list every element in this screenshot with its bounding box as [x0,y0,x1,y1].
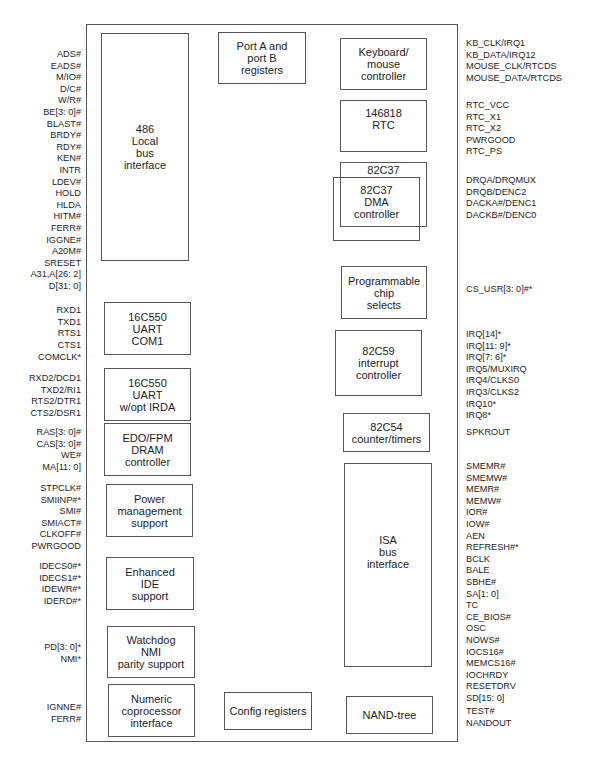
pin-label: SBHE# [466,577,519,589]
pin-label: IRQ3/CLKS2 [466,387,527,399]
pin-label: CLKOFF# [31,529,81,541]
dma-controller-label: 82C37 DMA controller [354,184,399,220]
pin-label: RTS2/DTR1 [29,396,81,408]
isa-bus-interface-label: ISA bus interface [367,534,409,570]
pin-label: IRQ5/MUXIRQ [466,364,527,376]
local-bus-interface-block: 486 Local bus interface [101,33,189,261]
keyboard-mouse-controller-label: Keyboard/ mouse controller [358,46,408,82]
pin-label: CTS1 [56,340,81,352]
pin-label: RXD1 [56,305,81,317]
pin-label: SA[1: 0] [466,589,519,601]
pin-label: NANDOUT [466,718,511,730]
pins-keyboard: KB_CLK/IRQ1 KB_DATA/IRQ12 MOUSE_CLK/RTCD… [466,38,562,84]
port-ab-registers-label: Port A and port B registers [237,40,288,76]
pin-label: IOR# [466,507,519,519]
pins-comclk: COMCLK* [38,352,81,364]
pin-label: FERR# [30,223,81,235]
keyboard-mouse-controller-block: Keyboard/ mouse controller [340,38,427,90]
power-management-block: Power management support [106,484,193,537]
pin-label: TC [466,600,519,612]
uart-irda-block: 16C550 UART w/opt IRDA [104,368,191,421]
pins-ide: IDECS0#* IDECS1#* IDEWR#* IDERD#* [39,561,81,607]
pin-label: IDECS1#* [39,573,81,585]
pin-label: STPCLK# [31,483,81,495]
pin-label: RAS[3: 0]# [37,427,81,439]
pin-label: RTS1 [56,328,81,340]
pin-label: WE# [37,450,81,462]
pin-label: AEN [466,531,519,543]
pin-label: IOCS16# [466,647,519,659]
isa-bus-interface-block: ISA bus interface [344,463,432,667]
pin-label: EADS# [30,61,81,73]
pin-label: SMI# [31,506,81,518]
pins-rtc: RTC_VCC RTC_X1 RTC_X2 PWRGOOD RTC_PS [466,100,516,158]
pins-isa: SMEMR# SMEMW# MEMR# MEMW# IOR# IOW# AEN … [466,461,519,704]
pin-label: MEMW# [466,496,519,508]
pin-label: BALE [466,565,519,577]
pin-label: SPKROUT [466,427,510,439]
programmable-chip-selects-label: Programmable chip selects [348,275,420,311]
pin-label: CS_USR[3: 0]#* [466,284,532,296]
config-registers-label: Config registers [229,705,306,717]
numeric-coprocessor-block: Numeric coprocessor interface [108,684,195,737]
pin-label: HOLD [30,188,81,200]
pin-label: IGGNE# [30,235,81,247]
nand-tree-block: NAND-tree [346,696,433,734]
ide-support-block: Enhanced IDE support [106,557,194,610]
programmable-chip-selects-block: Programmable chip selects [341,266,427,319]
dram-controller-label: EDO/FPM DRAM controller [122,432,172,468]
pin-label: CE_BIOS# [466,612,519,624]
pins-numeric: IGNNE# FERR# [47,702,81,725]
pin-label: SMIACT# [31,518,81,530]
dma-controller-block: 82C37 DMA controller [333,177,420,241]
pin-label: IRQ10* [466,399,527,411]
pin-label: KB_CLK/IRQ1 [466,38,562,50]
pin-label: D[31: 0] [30,281,81,293]
pin-label: INTR [30,165,81,177]
uart-com1-label: 16C550 UART COM1 [128,311,167,347]
watchdog-nmi-label: Watchdog NMI parity support [118,634,185,670]
pin-label: MOUSE_DATA/RTCDS [466,73,562,85]
pin-label: RTC_X2 [466,123,516,135]
power-management-label: Power management support [117,493,181,529]
pins-dram: RAS[3: 0]# CAS[3: 0]# WE# MA[11: 0] [37,427,81,473]
rtc-label: 146818 RTC [365,107,402,131]
interrupt-controller-label: 82C59 interrupt controller [356,345,401,381]
pins-pit: SPKROUT [466,427,510,439]
pin-label: M/IO# [30,72,81,84]
nand-tree-label: NAND-tree [363,709,417,721]
pin-label: IGNNE# [47,702,81,714]
pin-label: D/C# [30,84,81,96]
pin-label: MOUSE_CLK/RTCDS [466,61,562,73]
pin-label: IRQ4/CLKS0 [466,375,527,387]
pin-label: DRQB/DENC2 [466,187,536,199]
uart-irda-label: 16C550 UART w/opt IRDA [120,377,176,413]
pin-label: IDEWR#* [39,584,81,596]
pin-label: MEMR# [466,484,519,496]
pin-label: OSC [466,623,519,635]
config-registers-block: Config registers [224,692,312,730]
pin-label: IRQ[7: 6]* [466,352,527,364]
pin-label: IRQ8* [466,410,527,422]
pin-label: CAS[3: 0]# [37,439,81,451]
pin-label: IDECS0#* [39,561,81,573]
pin-label: SRESET [30,258,81,270]
pin-label: NOWS# [466,635,519,647]
pin-label: DRQA/DRQMUX [466,175,536,187]
pin-label: W/R# [30,95,81,107]
pins-chip-selects: CS_USR[3: 0]#* [466,284,532,296]
pins-uart1: RXD1 TXD1 RTS1 CTS1 [56,305,81,351]
pin-label: MEMCS16# [466,658,519,670]
pin-label: IRQ[14]* [466,329,527,341]
pin-label: REFRESH#* [466,542,519,554]
pin-label: BLAST# [30,119,81,131]
pin-label: BE[3: 0]# [30,107,81,119]
pin-label: BRDY# [30,130,81,142]
pin-label: FERR# [47,714,81,726]
pin-label: HLDA [30,200,81,212]
pins-nand: TEST# NANDOUT [466,706,511,729]
pin-label: MA[11: 0] [37,462,81,474]
pin-label: SMIINP#* [31,495,81,507]
pin-label: KEN# [30,153,81,165]
pin-label: COMCLK* [38,352,81,364]
